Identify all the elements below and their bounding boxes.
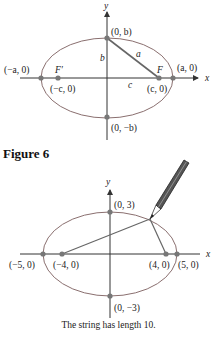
ellipse-diagrams: y x (0, b) (0, −b) (−a, 0) (a, 0) (−c, 0… [0,0,217,338]
label-left-focus: (−4, 0) [53,260,79,271]
point-left-focus [55,75,60,80]
label-right-vertex: (5, 0) [178,260,199,271]
point-right-vertex [174,251,179,256]
label-c: c [128,80,133,90]
label-top: (0, b) [111,27,132,38]
x-axis-label: x [204,73,210,83]
label-a: a [136,49,141,59]
point-left-focus [59,251,64,256]
label-focus: F [156,65,163,75]
label-b: b [100,53,105,63]
point-left-vertex [38,75,43,80]
point-right-focus [163,251,168,256]
point-top [107,209,112,214]
x-axis-label: x [205,249,211,259]
label-left-vertex: (−5, 0) [9,260,35,271]
point-bottom [104,114,109,119]
figure-caption: Figure 6 [3,146,49,162]
y-axis-label: y [105,177,111,187]
string-left [62,219,150,254]
label-left-vertex: (−a, 0) [4,65,29,76]
label-bottom: (0, −b) [111,123,137,134]
segment-a [107,38,159,78]
label-left-focus: (−c, 0) [50,84,75,95]
label-right-vertex: (a, 0) [177,63,197,74]
figure-2-ellipse: y x (0, 3) (0, −3) (−5, 0) (5, 0) (−4, 0… [9,160,211,318]
y-axis-label: y [103,1,109,11]
point-top [104,35,109,40]
label-focus-prime: F′ [54,65,64,75]
label-right-focus: (4, 0) [149,260,170,271]
point-left-vertex [40,251,45,256]
label-right-focus: (c, 0) [147,84,167,95]
pencil-icon [150,160,189,219]
label-top: (0, 3) [114,200,135,211]
point-right-focus [156,75,161,80]
point-right-vertex [170,75,175,80]
string-caption: The string has length 10. [0,320,217,330]
figure-1-ellipse: y x (0, b) (0, −b) (−a, 0) (a, 0) (−c, 0… [4,1,210,140]
label-bottom: (0, −3) [114,303,140,314]
point-bottom [107,293,112,298]
